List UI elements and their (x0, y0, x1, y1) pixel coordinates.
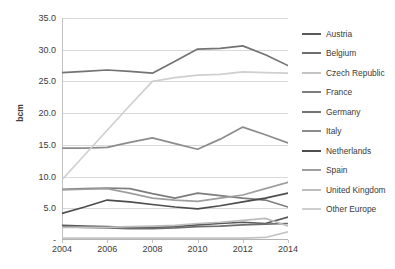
x-axis-tick-label: 2010 (175, 244, 221, 254)
legend-label: Austria (326, 30, 352, 38)
legend-item[interactable]: Italy (302, 122, 394, 142)
x-axis-tickmark (107, 240, 108, 243)
legend-color-swatch (302, 150, 321, 152)
legend-color-swatch (302, 52, 321, 54)
legend-color-swatch (302, 169, 321, 171)
legend-label: United Kingdom (326, 186, 386, 194)
x-axis-tickmark (62, 240, 63, 243)
y-axis-tick-label: 35.0 (18, 13, 56, 23)
series-line (62, 232, 288, 238)
legend: AustriaBelgiumCzech RepublicFranceGerman… (302, 24, 394, 219)
legend-item[interactable]: Austria (302, 24, 394, 44)
legend-color-swatch (302, 189, 321, 191)
legend-color-swatch (302, 72, 321, 74)
legend-item[interactable]: Czech Republic (302, 63, 394, 83)
y-axis-tick-label: 30.0 (18, 45, 56, 55)
x-axis-tickmark (152, 240, 153, 243)
legend-label: Netherlands (326, 147, 371, 155)
y-axis-tick-label: 20.0 (18, 108, 56, 118)
y-axis-tick-label: 25.0 (18, 76, 56, 86)
x-axis-tick-label: 2006 (84, 244, 130, 254)
series-lines (62, 18, 288, 240)
legend-item[interactable]: Spain (302, 161, 394, 181)
plot-area (62, 18, 288, 240)
legend-color-swatch (302, 33, 321, 35)
legend-item[interactable]: Other Europe (302, 200, 394, 220)
series-line (62, 46, 288, 73)
y-axis-tick-label: 15.0 (18, 140, 56, 150)
x-axis-tickmark (288, 240, 289, 243)
x-axis-tick-label: 2012 (220, 244, 266, 254)
legend-label: Czech Republic (326, 69, 385, 77)
legend-color-swatch (302, 111, 321, 113)
legend-label: France (326, 88, 352, 96)
legend-color-swatch (302, 91, 321, 93)
y-axis-tick-label: 10.0 (18, 172, 56, 182)
series-line (62, 72, 288, 180)
legend-label: Belgium (326, 49, 356, 57)
legend-item[interactable]: Belgium (302, 44, 394, 64)
legend-item[interactable]: Netherlands (302, 141, 394, 161)
legend-item[interactable]: Germany (302, 102, 394, 122)
x-axis-tick-label: 2004 (39, 244, 85, 254)
series-line (62, 127, 288, 149)
legend-label: Spain (326, 166, 347, 174)
legend-color-swatch (302, 208, 321, 210)
x-axis-tickmark (243, 240, 244, 243)
legend-item[interactable]: United Kingdom (302, 180, 394, 200)
line-chart: bcm 35.030.025.020.015.010.05.0- 2004200… (0, 0, 395, 269)
series-line (62, 193, 288, 213)
x-axis-tick-label: 2014 (265, 244, 311, 254)
legend-color-swatch (302, 130, 321, 132)
x-axis-tick-label: 2008 (129, 244, 175, 254)
legend-label: Other Europe (326, 205, 376, 213)
legend-item[interactable]: France (302, 83, 394, 103)
legend-label: Italy (326, 127, 341, 135)
x-axis-tickmark (198, 240, 199, 243)
legend-label: Germany (326, 108, 360, 116)
y-axis-tick-label: 5.0 (18, 203, 56, 213)
